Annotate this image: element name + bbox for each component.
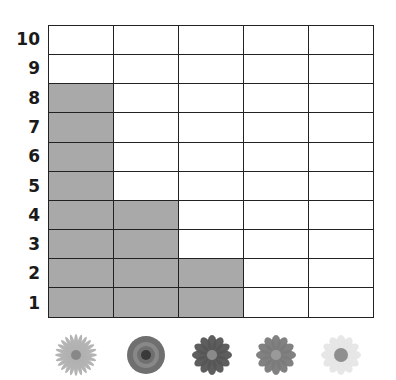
filled-cell xyxy=(49,143,114,172)
filled-cell xyxy=(179,288,244,317)
filled-cell xyxy=(114,230,179,259)
filled-cell xyxy=(49,201,114,230)
y-tick-label: 2 xyxy=(0,259,40,288)
y-tick-label: 5 xyxy=(0,172,40,201)
empty-cell xyxy=(49,26,114,55)
empty-cell xyxy=(179,230,244,259)
empty-cell xyxy=(244,288,309,317)
y-tick-label: 9 xyxy=(0,54,40,83)
empty-cell xyxy=(49,55,114,84)
filled-cell xyxy=(179,259,244,288)
empty-cell xyxy=(309,172,374,201)
empty-cell xyxy=(179,172,244,201)
empty-cell xyxy=(114,84,179,113)
empty-cell xyxy=(309,84,374,113)
empty-cell xyxy=(179,113,244,142)
empty-cell xyxy=(309,201,374,230)
filled-cell xyxy=(114,259,179,288)
empty-cell xyxy=(244,84,309,113)
rose-flower-icon xyxy=(124,334,168,376)
y-tick-label: 4 xyxy=(0,201,40,230)
daisy-flower-icon xyxy=(319,334,363,376)
filled-cell xyxy=(49,230,114,259)
y-tick-label: 1 xyxy=(0,289,40,318)
filled-cell xyxy=(49,259,114,288)
empty-cell xyxy=(244,143,309,172)
empty-cell xyxy=(114,143,179,172)
dandelion-flower-icon xyxy=(54,334,98,376)
gerbera-flower-icon xyxy=(254,334,298,376)
filled-cell xyxy=(49,172,114,201)
empty-cell xyxy=(244,259,309,288)
empty-cell xyxy=(244,55,309,84)
filled-cell xyxy=(49,113,114,142)
empty-cell xyxy=(179,26,244,55)
empty-cell xyxy=(309,288,374,317)
y-tick-label: 8 xyxy=(0,84,40,113)
dark-flower-flower-icon xyxy=(190,334,234,376)
empty-cell xyxy=(179,84,244,113)
empty-cell xyxy=(114,172,179,201)
filled-cell xyxy=(114,201,179,230)
empty-cell xyxy=(309,259,374,288)
empty-cell xyxy=(114,113,179,142)
y-tick-label: 7 xyxy=(0,113,40,142)
filled-cell xyxy=(49,288,114,317)
empty-cell xyxy=(244,113,309,142)
empty-cell xyxy=(179,201,244,230)
empty-cell xyxy=(244,26,309,55)
y-tick-label: 10 xyxy=(0,25,40,54)
filled-cell xyxy=(114,288,179,317)
empty-cell xyxy=(244,201,309,230)
empty-cell xyxy=(244,172,309,201)
empty-cell xyxy=(309,26,374,55)
empty-cell xyxy=(309,143,374,172)
empty-cell xyxy=(309,55,374,84)
empty-cell xyxy=(179,55,244,84)
empty-cell xyxy=(309,230,374,259)
y-tick-label: 3 xyxy=(0,230,40,259)
empty-cell xyxy=(309,113,374,142)
pictograph-grid xyxy=(48,25,374,318)
empty-cell xyxy=(244,230,309,259)
empty-cell xyxy=(114,26,179,55)
empty-cell xyxy=(179,143,244,172)
empty-cell xyxy=(114,55,179,84)
filled-cell xyxy=(49,84,114,113)
y-tick-label: 6 xyxy=(0,142,40,171)
